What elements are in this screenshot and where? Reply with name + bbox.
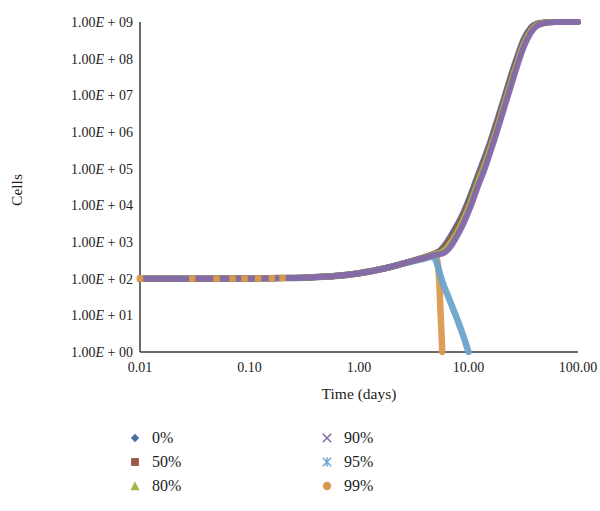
x-tick-label: 1.00 <box>347 360 372 375</box>
x-tick-label: 0.01 <box>128 360 153 375</box>
legend-marker-circle-icon <box>323 482 331 490</box>
data-marker <box>137 275 143 281</box>
x-axis-title: Time (days) <box>322 385 397 403</box>
y-tick-label: 1.00E + 00 <box>71 345 133 360</box>
legend-marker-square-icon <box>131 458 139 466</box>
legend-label: 90% <box>344 429 373 446</box>
data-marker <box>279 275 285 281</box>
data-marker <box>229 275 235 281</box>
legend-label: 0% <box>152 429 173 446</box>
y-tick-label: 1.00E + 02 <box>71 272 133 287</box>
y-tick-label: 1.00E + 04 <box>71 198 133 213</box>
data-marker <box>269 275 275 281</box>
y-tick-label: 1.00E + 01 <box>71 308 133 323</box>
y-axis-title: Cells <box>8 174 25 206</box>
x-tick-label: 0.10 <box>237 360 262 375</box>
legend-label: 80% <box>152 477 181 494</box>
data-marker <box>241 275 247 281</box>
cell-growth-chart: 1.00E + 091.00E + 081.00E + 071.00E + 06… <box>0 0 600 511</box>
y-tick-label: 1.00E + 05 <box>71 162 133 177</box>
x-tick-label: 10.00 <box>453 360 485 375</box>
y-tick-label: 1.00E + 09 <box>71 15 133 30</box>
data-marker <box>255 275 261 281</box>
data-marker <box>189 275 195 281</box>
x-tick-label: 100.00 <box>559 360 598 375</box>
legend-label: 95% <box>344 453 373 470</box>
legend-label: 99% <box>344 477 373 494</box>
legend-label: 50% <box>152 453 181 470</box>
y-tick-label: 1.00E + 07 <box>71 88 133 103</box>
y-tick-label: 1.00E + 06 <box>71 125 133 140</box>
data-marker <box>213 275 219 281</box>
y-tick-label: 1.00E + 03 <box>71 235 133 250</box>
y-tick-label: 1.00E + 08 <box>71 52 133 67</box>
